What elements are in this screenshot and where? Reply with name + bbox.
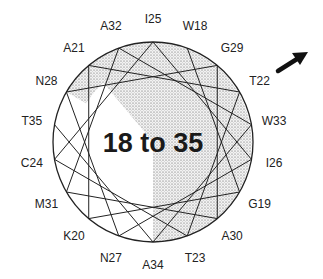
residue-label: C24 — [21, 156, 43, 170]
arrow-icon — [278, 52, 308, 71]
residue-label: T22 — [249, 74, 270, 88]
residue-label: G29 — [221, 41, 244, 55]
residue-label: W18 — [183, 19, 208, 33]
residue-label: N28 — [35, 74, 57, 88]
residue-label: I26 — [266, 156, 283, 170]
center-label: 18 to 35 — [103, 128, 204, 158]
residue-label: A34 — [142, 258, 164, 272]
residue-label: A21 — [63, 41, 85, 55]
residue-label: K20 — [63, 229, 85, 243]
residue-label: T35 — [22, 114, 43, 128]
residue-label: T23 — [185, 251, 206, 265]
residue-label: A32 — [100, 19, 122, 33]
residue-label: M31 — [35, 197, 59, 211]
residue-label: W33 — [262, 114, 287, 128]
residue-label: A30 — [221, 229, 243, 243]
residue-label: N27 — [100, 251, 122, 265]
residue-label: I25 — [145, 12, 162, 26]
helical-wheel-diagram: I25W18G29T22W33I26G19A30T23A34N27K20M31C… — [0, 0, 323, 279]
residue-label: G19 — [248, 197, 271, 211]
